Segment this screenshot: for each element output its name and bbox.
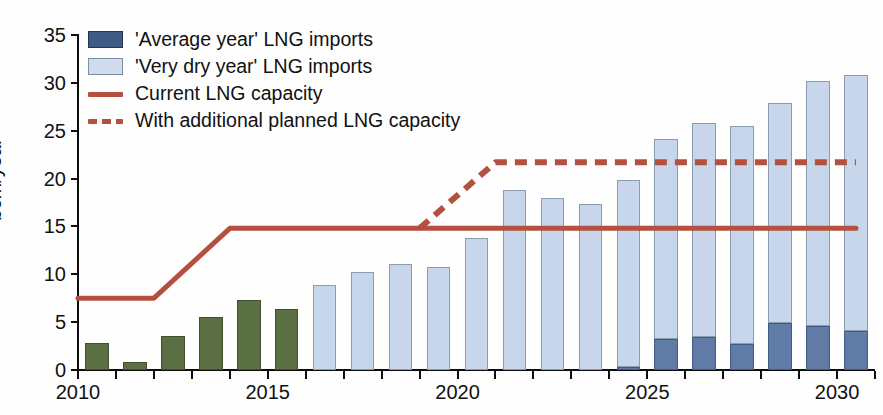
bar-segment-dry-2016 — [313, 285, 337, 370]
y-tick-5 — [71, 321, 78, 323]
bar-2030 — [844, 35, 868, 370]
bar-segment-dry-2021 — [503, 190, 527, 370]
bar-segment-dry-2023 — [579, 204, 603, 370]
bar-segment-avg-2026 — [692, 337, 716, 371]
x-tick — [836, 371, 838, 379]
x-tick — [722, 371, 724, 379]
legend-item-1[interactable]: 'Very dry year' LNG imports — [88, 53, 460, 80]
x-tick — [570, 371, 572, 379]
bar-segment-hist-2010 — [85, 343, 109, 370]
bar-segment-dry-2030 — [844, 75, 868, 331]
legend-item-0[interactable]: 'Average year' LNG imports — [88, 26, 460, 53]
legend-solid-line-icon — [88, 85, 123, 102]
bar-segment-dry-2025 — [654, 139, 678, 339]
legend-dashed-line-icon — [88, 112, 123, 129]
lng-imports-chart: bcm/year 05101520253035 2010201520202025… — [0, 0, 883, 415]
bar-2026 — [692, 35, 716, 370]
bar-segment-avg-2029 — [806, 326, 830, 370]
bar-2022 — [541, 35, 565, 370]
bar-2023 — [579, 35, 603, 370]
legend-label: With additional planned LNG capacity — [135, 111, 460, 131]
legend-swatch-icon — [88, 58, 123, 75]
x-tick — [343, 371, 345, 379]
bar-2024 — [617, 35, 641, 370]
bar-2027 — [730, 35, 754, 370]
x-tick — [267, 371, 269, 379]
bar-segment-dry-2018 — [389, 264, 413, 370]
legend-label: Current LNG capacity — [135, 84, 323, 104]
x-tick — [115, 371, 117, 379]
x-tick-label-2015: 2015 — [246, 381, 291, 404]
y-tick-label-20: 20 — [0, 169, 66, 189]
bar-segment-dry-2019 — [427, 267, 451, 370]
y-tick-15 — [71, 225, 78, 227]
bar-segment-dry-2029 — [806, 81, 830, 326]
chart-legend: 'Average year' LNG imports'Very dry year… — [88, 26, 460, 134]
bar-segment-hist-2012 — [161, 336, 185, 370]
bar-segment-dry-2017 — [351, 272, 375, 370]
y-tick-label-15: 15 — [0, 216, 66, 236]
x-tick — [874, 371, 876, 379]
y-tick-label-25: 25 — [0, 121, 66, 141]
bar-2021 — [503, 35, 527, 370]
legend-item-2[interactable]: Current LNG capacity — [88, 80, 460, 107]
x-tick — [608, 371, 610, 379]
y-tick-label-0: 0 — [0, 360, 66, 380]
bar-segment-hist-2015 — [275, 309, 299, 370]
y-tick-label-5: 5 — [0, 312, 66, 332]
legend-item-3[interactable]: With additional planned LNG capacity — [88, 107, 460, 134]
y-tick-20 — [71, 178, 78, 180]
x-tick — [191, 371, 193, 379]
bar-segment-avg-2024 — [617, 367, 641, 370]
legend-label: 'Average year' LNG imports — [135, 30, 373, 50]
x-tick — [381, 371, 383, 379]
bar-segment-dry-2022 — [541, 198, 565, 370]
x-tick-label-2010: 2010 — [56, 381, 101, 404]
bar-segment-avg-2028 — [768, 323, 792, 370]
bar-segment-avg-2025 — [654, 339, 678, 370]
bar-segment-avg-2027 — [730, 344, 754, 370]
x-tick — [760, 371, 762, 379]
legend-label: 'Very dry year' LNG imports — [135, 57, 372, 77]
x-tick — [494, 371, 496, 379]
x-tick-label-2020: 2020 — [435, 381, 480, 404]
legend-swatch-icon — [88, 31, 123, 48]
x-tick — [798, 371, 800, 379]
bar-2025 — [654, 35, 678, 370]
bar-segment-dry-2024 — [617, 180, 641, 368]
bar-segment-dry-2028 — [768, 103, 792, 323]
y-tick-30 — [71, 82, 78, 84]
bar-2020 — [465, 35, 489, 370]
x-tick — [229, 371, 231, 379]
x-tick — [532, 371, 534, 379]
bar-2028 — [768, 35, 792, 370]
y-tick-label-30: 30 — [0, 73, 66, 93]
y-tick-label-10: 10 — [0, 264, 66, 284]
bar-segment-hist-2011 — [123, 362, 147, 370]
bar-2029 — [806, 35, 830, 370]
y-tick-35 — [71, 34, 78, 36]
x-tick — [305, 371, 307, 379]
bar-segment-avg-2030 — [844, 331, 868, 370]
bar-segment-dry-2027 — [730, 126, 754, 344]
y-tick-25 — [71, 130, 78, 132]
x-tick — [457, 371, 459, 379]
bar-segment-hist-2014 — [237, 300, 261, 370]
x-tick — [77, 371, 79, 379]
bar-segment-dry-2026 — [692, 123, 716, 336]
x-tick-label-2030: 2030 — [815, 381, 860, 404]
bar-segment-dry-2020 — [465, 238, 489, 370]
y-tick-10 — [71, 273, 78, 275]
bar-segment-hist-2013 — [199, 317, 223, 370]
y-tick-label-35: 35 — [0, 25, 66, 45]
x-tick-label-2025: 2025 — [625, 381, 670, 404]
x-tick — [684, 371, 686, 379]
x-tick — [646, 371, 648, 379]
x-tick — [419, 371, 421, 379]
x-tick — [153, 371, 155, 379]
